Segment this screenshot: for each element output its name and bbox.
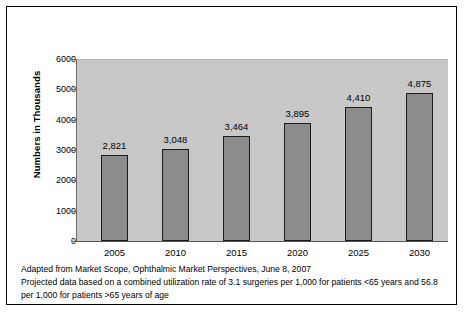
bar-2025[interactable] xyxy=(345,107,372,241)
bar-value-label: 3,048 xyxy=(164,134,188,145)
plot-inner xyxy=(77,60,448,242)
plot-area xyxy=(76,59,448,242)
x-tick-label-2010: 2010 xyxy=(165,247,186,258)
x-tick-label-2020: 2020 xyxy=(287,247,308,258)
bar-value-label: 3,464 xyxy=(225,121,249,132)
y-tick-label: 6000 xyxy=(36,54,76,64)
bar-2020[interactable] xyxy=(284,123,311,241)
bar-value-label: 4,410 xyxy=(347,92,371,103)
caption-source-line: Adapted from Market Scope, Ophthalmic Ma… xyxy=(21,263,446,275)
y-tick-label: 0 xyxy=(36,236,76,246)
figure-container: Numbers in Thousands 6000 5000 4000 3000… xyxy=(6,6,457,305)
y-axis-ticks: 6000 5000 4000 3000 2000 1000 0 xyxy=(29,7,76,259)
y-tick-label: 1000 xyxy=(36,206,76,216)
bar-2005[interactable] xyxy=(101,155,128,241)
x-tick-label-2015: 2015 xyxy=(226,247,247,258)
x-tick-label-2025: 2025 xyxy=(348,247,369,258)
x-tick-label-2030: 2030 xyxy=(409,247,430,258)
y-tick-label: 4000 xyxy=(36,115,76,125)
x-axis-line xyxy=(76,241,448,242)
y-tick-label: 2000 xyxy=(36,175,76,185)
bar-value-label: 2,821 xyxy=(103,140,127,151)
bar-value-label: 4,875 xyxy=(408,78,432,89)
bar-2030[interactable] xyxy=(406,93,433,241)
x-tick-label-2005: 2005 xyxy=(104,247,125,258)
bar-2015[interactable] xyxy=(223,136,250,241)
y-tick-label: 5000 xyxy=(36,84,76,94)
bar-2010[interactable] xyxy=(162,149,189,242)
chart-caption: Adapted from Market Scope, Ophthalmic Ma… xyxy=(21,263,446,301)
bar-value-label: 3,895 xyxy=(286,108,310,119)
chart-area: Numbers in Thousands 6000 5000 4000 3000… xyxy=(7,7,458,259)
y-tick-label: 3000 xyxy=(36,145,76,155)
caption-methodology-line: Projected data based on a combined utili… xyxy=(21,276,446,301)
